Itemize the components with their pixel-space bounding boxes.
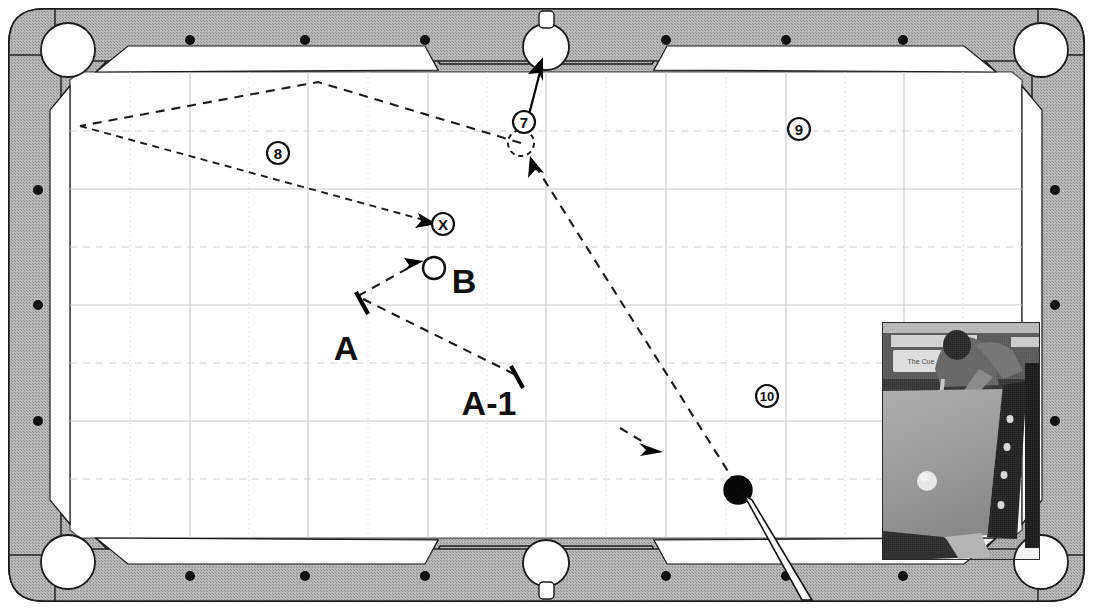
ball-10: 10 [756, 385, 778, 407]
label-a: A [334, 329, 359, 367]
target-point-x-number: X [438, 216, 448, 233]
diamond-top-3 [661, 35, 671, 45]
diamond-bottom-0 [185, 571, 195, 581]
diamond-top-0 [185, 35, 195, 45]
bottom-side-pocket-nub [539, 582, 554, 599]
diamond-bottom-5 [898, 571, 908, 581]
ball-8: 8 [267, 142, 289, 164]
diamond-bottom-3 [661, 571, 671, 581]
ball-10-number: 10 [760, 389, 774, 404]
photo-inset-image: The Cue [883, 323, 1040, 560]
diamond-top-4 [781, 35, 791, 45]
photo-inset: The Cue [882, 322, 1040, 560]
ball-9-number: 9 [795, 121, 803, 138]
diamond-right-2 [1050, 416, 1060, 426]
label-a-1: A-1 [462, 384, 517, 422]
target-point-x: X [432, 213, 454, 235]
pool-table-diagram: 89107X AA-1B [0, 0, 1093, 610]
diamond-bottom-1 [300, 571, 310, 581]
object-ball-b [423, 257, 445, 279]
diamond-left-2 [33, 416, 43, 426]
ball-8-number: 8 [274, 145, 282, 162]
ball-7-ghost-number: 7 [520, 114, 528, 131]
diamond-bottom-2 [420, 571, 430, 581]
bottom-left-pocket [41, 535, 95, 589]
cushion-face-l2 [50, 86, 70, 524]
label-b: B [452, 262, 477, 300]
diamond-right-0 [1050, 185, 1060, 195]
cushion-face-bl2 [96, 538, 438, 564]
diamond-left-1 [33, 300, 43, 310]
diamond-right-1 [1050, 300, 1060, 310]
top-side-pocket-nub [539, 11, 554, 28]
ball-9: 9 [788, 118, 810, 140]
diamond-top-2 [420, 35, 430, 45]
cushion-face-tl2 [96, 46, 438, 72]
photo-grain-overlay [883, 323, 1040, 560]
diamond-top-1 [300, 35, 310, 45]
cushion-face-tr2 [654, 46, 996, 72]
diamond-left-0 [33, 185, 43, 195]
top-side-pocket [523, 24, 569, 70]
bottom-side-pocket [523, 540, 569, 586]
diamond-top-5 [898, 35, 908, 45]
top-left-pocket [41, 23, 95, 77]
top-right-pocket [1014, 23, 1068, 77]
